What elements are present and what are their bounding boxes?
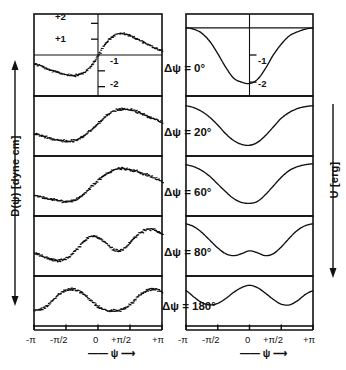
left-ytick-minus2: -2 [110,78,118,89]
row-label-0: Δψ = 0° [164,62,205,74]
xtick-right-3: +π/2 [263,334,283,345]
left-ytick-plus1: +1 [55,33,66,44]
panel-frame-left-3 [34,216,162,276]
xtick-right-0: -π [178,334,188,345]
right-ytick-minus2: -2 [258,78,266,89]
x-axis-caption-left: —— ψ ⟶ [88,348,135,359]
xtick-left-1: -π/2 [50,334,68,345]
right-ytick-minus1: -1 [258,55,266,66]
figure-root: D(ψ) [dyne cm] U [erg] Δψ = 0° Δψ = 20° … [0,0,346,370]
left-column-panels [34,14,164,326]
left-ytick-minus1: -1 [110,55,118,66]
xtick-left-3: +π/2 [111,334,131,345]
curve-D-psi-row-1 [34,108,163,142]
row-label-4: Δψ = 180° [162,300,216,312]
xtick-right-2: 0 [245,334,250,345]
panel-frame-left-2 [34,156,162,216]
xtick-left-4: +π [152,334,164,345]
row-label-1: Δψ = 20° [164,126,211,138]
row-label-2: Δψ = 60° [164,186,211,198]
curve-D-psi-row-2 [34,167,164,202]
row-label-3: Δψ = 80° [164,246,211,258]
x-axis-caption-right: —— ψ ⟶ [240,348,287,359]
plot-grid [0,0,346,370]
curve-D-psi-row-4 [34,288,163,312]
xtick-right-1: -π/2 [202,334,220,345]
left-ytick-plus2: +2 [55,11,66,22]
xtick-left-0: -π [26,334,36,345]
curve-D-psi-row-3 [34,229,163,262]
panel-frame-left-1 [34,96,162,156]
xtick-left-2: 0 [93,334,98,345]
xtick-right-4: +π [303,334,315,345]
right-column-panels [186,14,313,326]
